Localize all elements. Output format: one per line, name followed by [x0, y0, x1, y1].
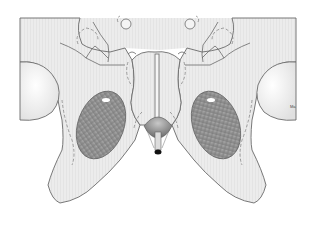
- bulb-tip: [155, 150, 162, 155]
- pelvis-illustration: Ma: [0, 0, 311, 236]
- central-bulb: [144, 117, 172, 155]
- pubic-symphysis: [155, 54, 159, 126]
- corner-label: Ma: [290, 104, 296, 109]
